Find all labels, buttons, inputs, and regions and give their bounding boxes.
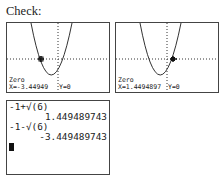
- x-readout: X=1.4494897: [118, 84, 161, 91]
- calculator-graph-screen-left-zero: Zero X=-3.44949 Y=0: [6, 22, 110, 93]
- x-readout: X=-3.44949: [9, 84, 48, 91]
- result-line: -3.449489743: [9, 132, 107, 142]
- calculator-home-screen: -1+√(6) 1.449489743 -1-√(6) -3.449489743: [6, 100, 110, 175]
- y-readout: Y=0: [59, 84, 71, 91]
- home-screen-history: -1+√(6) 1.449489743 -1-√(6) -3.449489743: [9, 102, 107, 152]
- calculator-graph-screen-right-zero: Zero X=1.4494897 Y=0: [115, 22, 219, 93]
- block-cursor-icon: [9, 143, 14, 151]
- y-readout: Y=0: [168, 84, 180, 91]
- trace-cursor-icon: [38, 56, 44, 62]
- check-heading: Check:: [6, 4, 41, 19]
